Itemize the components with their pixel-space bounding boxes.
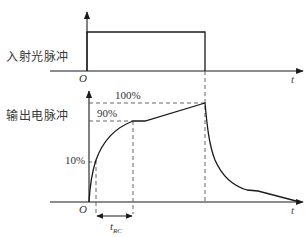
level-10-label: 10% (65, 154, 85, 166)
bottom-time-axis-label: t (291, 204, 294, 216)
output-electrical-pulse-label: 输出电脉冲 (6, 106, 69, 123)
bottom-panel (50, 71, 303, 216)
top-time-axis-label: t (291, 73, 294, 85)
level-100-label: 100% (115, 89, 141, 101)
top-origin-label: O (79, 72, 87, 84)
top-panel (50, 12, 303, 71)
incident-light-pulse-label: 入射光脉冲 (6, 47, 69, 64)
rise-time-label: tRC (110, 220, 122, 235)
bottom-origin-label: O (79, 203, 87, 215)
incident-light-pulse (87, 32, 205, 71)
rise-time-subscript: RC (113, 227, 122, 235)
level-90-label: 90% (97, 107, 117, 119)
output-electrical-pulse-curve (89, 103, 300, 202)
